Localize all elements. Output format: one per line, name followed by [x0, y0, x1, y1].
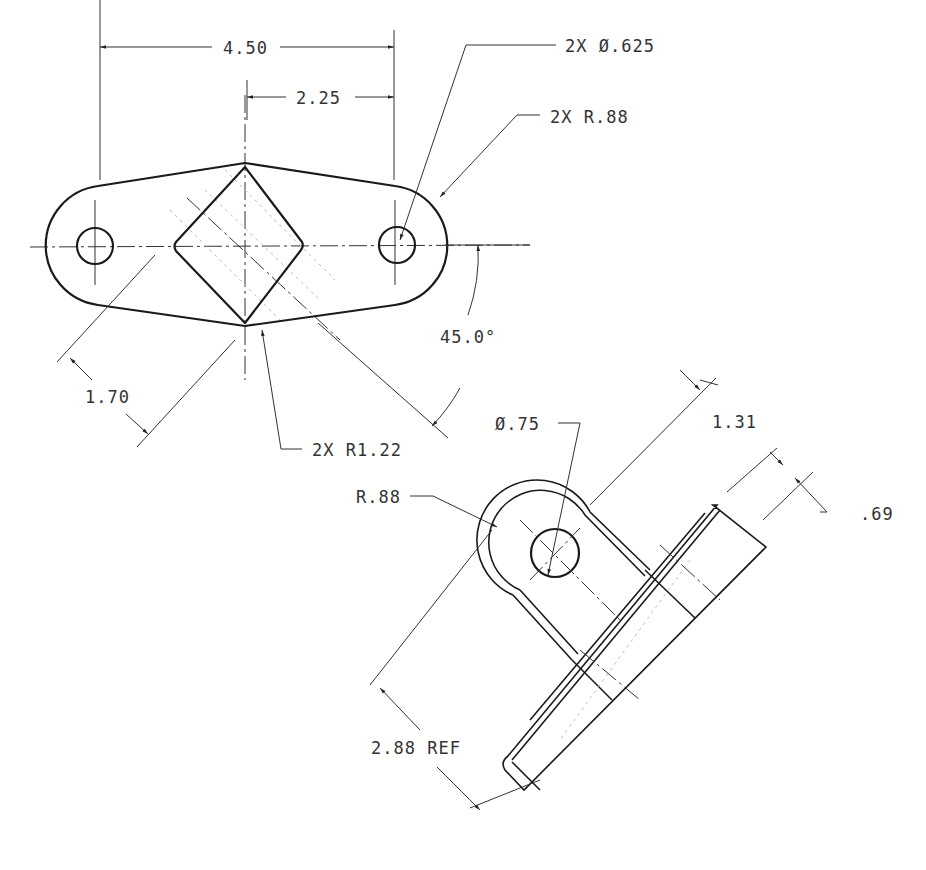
dim-eye-hole: Ø.75: [495, 414, 540, 434]
dim-waist-radius: 2X R1.22: [312, 440, 402, 460]
dim-end-radius: 2X R.88: [550, 107, 629, 127]
dim-2-25: 2.25: [296, 88, 341, 108]
top-view: 4.50 2.25 2X Ø.625 2X R.88 45.0° 1.70 2X…: [30, 0, 655, 460]
engineering-drawing: 4.50 2.25 2X Ø.625 2X R.88 45.0° 1.70 2X…: [0, 0, 926, 870]
diagonal-centerline: [187, 198, 340, 340]
dim-hole-diameter: 2X Ø.625: [565, 36, 655, 56]
plate-outline: [46, 163, 448, 326]
auxiliary-view: 1.31 .69 Ø.75 R.88 2.88 REF: [356, 370, 894, 810]
dim-1-31: 1.31: [712, 412, 757, 432]
dim-2-88-ref: 2.88 REF: [371, 738, 461, 758]
dim-1-70: 1.70: [85, 387, 130, 407]
dim-angle: 45.0°: [440, 327, 496, 347]
base-plate: [503, 505, 766, 790]
dim-0-69: .69: [860, 504, 894, 524]
diamond-cutout: [175, 167, 303, 323]
dim-eye-radius: R.88: [356, 487, 401, 507]
dim-4-50: 4.50: [223, 38, 268, 58]
